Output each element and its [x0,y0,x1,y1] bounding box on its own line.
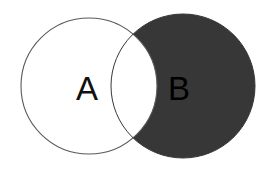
venn-diagram-svg: A B [0,0,277,178]
set-b-label: B [168,70,190,107]
set-a-label: A [76,70,98,107]
venn-diagram: A B [0,0,277,178]
